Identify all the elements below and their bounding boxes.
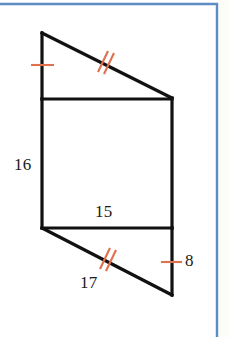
geometry-figure — [0, 0, 229, 337]
page-rule-border-icon — [0, 4, 217, 337]
page-rule-lines — [0, 4, 217, 337]
label-bottom-diagonal: 17 — [80, 274, 97, 291]
label-middle-base: 15 — [95, 203, 112, 220]
label-right-lower: 8 — [185, 252, 194, 269]
worksheet-page: 16 15 17 8 — [0, 0, 229, 337]
tick-marks — [31, 51, 182, 271]
segment-bottom-diagonal — [42, 228, 172, 295]
label-left-side: 16 — [14, 156, 31, 173]
